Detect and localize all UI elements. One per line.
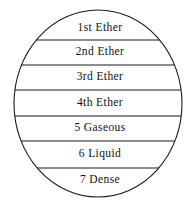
band-label-2: 2nd Ether: [76, 45, 125, 57]
band-label-4: 4th Ether: [77, 96, 123, 108]
ether-layers-diagram: 1st Ether2nd Ether3rd Ether4th Ether5 Ga…: [0, 0, 196, 204]
band-label-1: 1st Ether: [78, 21, 123, 33]
band-label-5: 5 Gaseous: [74, 121, 125, 133]
diagram-canvas: 1st Ether2nd Ether3rd Ether4th Ether5 Ga…: [0, 0, 196, 204]
band-label-7: 7 Dense: [80, 173, 120, 185]
band-label-3: 3rd Ether: [77, 70, 124, 82]
band-label-6: 6 Liquid: [79, 147, 122, 160]
